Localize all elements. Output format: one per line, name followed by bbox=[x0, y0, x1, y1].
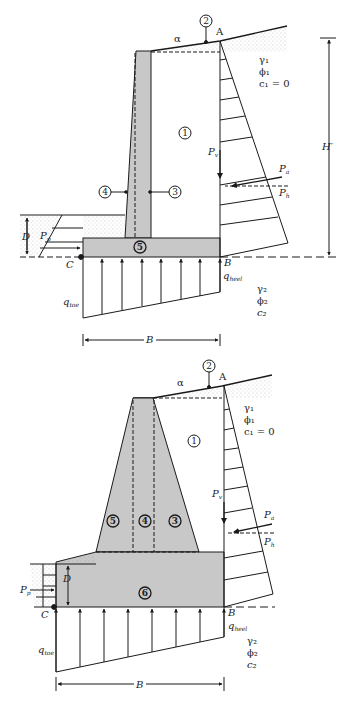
point-c-label: C bbox=[66, 259, 74, 270]
gravity-wall-panel bbox=[30, 360, 275, 691]
cantilever-wall-labels: 2 1 4 3 5 α A γ₁ ϕ₁ c₁ = 0 H′ Pv Pa Ph P… bbox=[21, 16, 334, 345]
b-width-label: B bbox=[145, 334, 153, 345]
d-label: D bbox=[62, 573, 71, 584]
q-toe-label: qtoe bbox=[38, 644, 54, 656]
pa-label: Pa bbox=[278, 163, 290, 175]
region-3-label: 3 bbox=[172, 187, 178, 197]
region-4-label: 4 bbox=[142, 516, 148, 526]
region-1-label: 1 bbox=[191, 436, 197, 446]
pa-label: Pa bbox=[263, 509, 275, 521]
retaining-wall-diagram: 2 1 4 3 5 α A γ₁ ϕ₁ c₁ = 0 H′ Pv Pa Ph P… bbox=[0, 0, 343, 706]
c1-label: c₁ = 0 bbox=[244, 426, 275, 437]
region-1-label: 1 bbox=[182, 128, 188, 138]
region-4-label: 4 bbox=[102, 187, 108, 197]
b-width-label: B bbox=[135, 679, 143, 690]
q-heel-label: qheel bbox=[228, 620, 247, 632]
c2-label: c₂ bbox=[247, 659, 257, 670]
gamma2-label: γ₂ bbox=[257, 283, 267, 294]
region-2-label: 2 bbox=[206, 361, 212, 371]
alpha-label: α bbox=[174, 33, 181, 44]
c1-label: c₁ = 0 bbox=[259, 78, 290, 89]
alpha-label: α bbox=[177, 377, 184, 388]
pv-label: Pv bbox=[207, 146, 219, 158]
q-heel-label: qheel bbox=[223, 270, 242, 282]
h-prime-label: H′ bbox=[321, 141, 334, 152]
ph-label: Ph bbox=[263, 536, 275, 548]
point-b-label: B bbox=[223, 257, 231, 268]
d-label: D bbox=[21, 231, 30, 242]
region-6-label: 6 bbox=[142, 588, 148, 598]
region-2-label: 2 bbox=[203, 16, 209, 26]
region-5-label: 5 bbox=[137, 242, 143, 252]
point-b-label: B bbox=[227, 607, 235, 618]
phi1-label: ϕ₁ bbox=[244, 414, 255, 425]
region-5-label: 5 bbox=[110, 516, 116, 526]
point-a-label: A bbox=[215, 26, 224, 37]
c2-label: c₂ bbox=[257, 307, 267, 318]
phi2-label: ϕ₂ bbox=[247, 647, 258, 658]
pp-label: Pp bbox=[19, 584, 31, 597]
gamma1-label: γ₁ bbox=[244, 402, 254, 413]
pv-label: Pv bbox=[211, 488, 223, 500]
point-a-label: A bbox=[218, 371, 227, 382]
q-toe-label: qtoe bbox=[63, 296, 79, 308]
phi1-label: ϕ₁ bbox=[259, 66, 270, 77]
point-c-label: C bbox=[41, 609, 49, 620]
region-3-label: 3 bbox=[172, 516, 178, 526]
gamma2-label: γ₂ bbox=[247, 635, 257, 646]
phi2-label: ϕ₂ bbox=[257, 295, 268, 306]
ph-label: Ph bbox=[278, 187, 290, 199]
gamma1-label: γ₁ bbox=[259, 54, 269, 65]
